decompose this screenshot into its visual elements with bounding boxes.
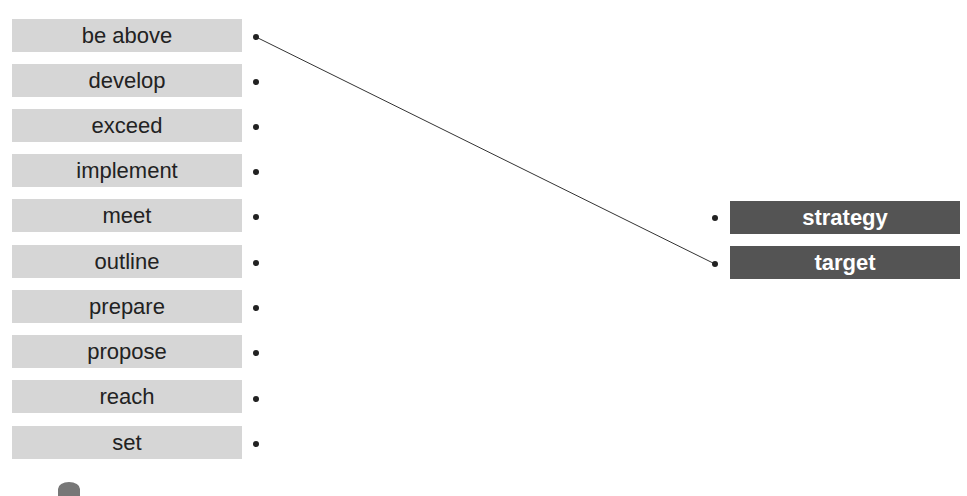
left-item-propose[interactable]: propose — [12, 335, 242, 368]
left-dot-implement[interactable] — [253, 169, 259, 175]
left-item-prepare[interactable]: prepare — [12, 290, 242, 323]
left-item-label: reach — [99, 384, 154, 410]
left-item-label: propose — [87, 339, 167, 365]
left-item-develop[interactable]: develop — [12, 64, 242, 97]
right-item-target[interactable]: target — [730, 246, 960, 279]
left-item-exceed[interactable]: exceed — [12, 109, 242, 142]
left-item-meet[interactable]: meet — [12, 199, 242, 232]
right-item-strategy[interactable]: strategy — [730, 201, 960, 234]
left-item-label: prepare — [89, 294, 165, 320]
left-item-set[interactable]: set — [12, 426, 242, 459]
connection-line-be-above-target — [256, 37, 715, 264]
right-item-label: strategy — [802, 205, 888, 231]
left-dot-exceed[interactable] — [253, 124, 259, 130]
left-item-label: be above — [82, 23, 173, 49]
left-item-label: develop — [88, 68, 165, 94]
left-item-implement[interactable]: implement — [12, 154, 242, 187]
drag-handle-icon[interactable] — [58, 482, 80, 496]
left-item-label: exceed — [92, 113, 163, 139]
left-item-be-above[interactable]: be above — [12, 19, 242, 52]
left-dot-propose[interactable] — [253, 350, 259, 356]
left-item-label: meet — [103, 203, 152, 229]
left-item-label: implement — [76, 158, 177, 184]
left-item-outline[interactable]: outline — [12, 245, 242, 278]
left-dot-set[interactable] — [253, 441, 259, 447]
right-item-label: target — [814, 250, 875, 276]
right-dot-strategy[interactable] — [712, 215, 718, 221]
left-dot-develop[interactable] — [253, 79, 259, 85]
left-item-label: outline — [95, 249, 160, 275]
left-dot-reach[interactable] — [253, 396, 259, 402]
left-item-reach[interactable]: reach — [12, 380, 242, 413]
left-dot-outline[interactable] — [253, 260, 259, 266]
left-item-label: set — [112, 430, 141, 456]
right-dot-target[interactable] — [712, 261, 718, 267]
left-dot-meet[interactable] — [253, 214, 259, 220]
left-dot-be-above[interactable] — [253, 34, 259, 40]
left-dot-prepare[interactable] — [253, 305, 259, 311]
